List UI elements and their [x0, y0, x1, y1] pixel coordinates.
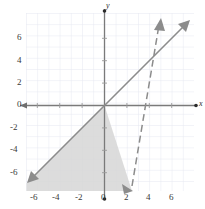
y-tick-label-neg6: -6: [10, 168, 18, 177]
x-axis-label: x: [199, 99, 203, 108]
y-tick-label-neg4: -4: [10, 145, 18, 154]
y-tick-label-2: 2: [17, 78, 22, 87]
graph-canvas: [0, 0, 205, 209]
x-tick-label-neg6: -6: [30, 193, 38, 202]
x-tick-label-neg2: -2: [75, 193, 83, 202]
x-tick-label-0: 0: [101, 193, 106, 202]
coordinate-plane-figure: 6 4 2 0 -2 -4 -6 -6 -4 -2 0 2 4 6 y x: [0, 0, 205, 209]
y-tick-label-neg2: -2: [10, 123, 18, 132]
x-tick-label-4: 4: [146, 193, 151, 202]
y-tick-label-4: 4: [17, 56, 22, 65]
y-tick-label-6: 6: [17, 33, 22, 42]
y-axis-label: y: [106, 1, 110, 10]
x-tick-label-neg4: -4: [52, 193, 60, 202]
x-axis-right-dot: [194, 104, 198, 108]
x-tick-label-2: 2: [124, 193, 129, 202]
y-tick-label-0: 0: [17, 100, 22, 109]
x-tick-label-6: 6: [169, 193, 174, 202]
